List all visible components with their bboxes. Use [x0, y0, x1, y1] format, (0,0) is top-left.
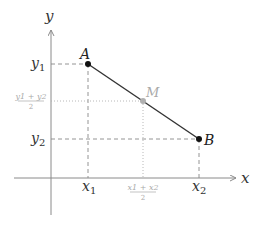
tick-ym: y1 + y2 2	[14, 92, 46, 111]
svg-text:x: x	[82, 178, 90, 194]
point-b	[196, 136, 202, 142]
label-a: A	[78, 46, 90, 62]
tick-x1: x 1	[82, 178, 96, 196]
svg-text:2: 2	[29, 103, 33, 111]
tick-y2: y 2	[30, 130, 45, 148]
svg-text:2: 2	[200, 185, 206, 196]
svg-text:1: 1	[90, 185, 96, 196]
tick-xm: x1 + x2 2	[128, 183, 159, 202]
midpoint-guides	[51, 101, 143, 178]
svg-text:1: 1	[39, 62, 45, 73]
svg-text:y1 + y2: y1 + y2	[14, 92, 46, 101]
tick-y1: y 1	[30, 55, 45, 73]
svg-text:2: 2	[39, 137, 45, 148]
midpoint-diagram: A B M x y y 1 y 2 y1 + y2 2 x 1 x 2 x1 +…	[0, 0, 260, 228]
axis-label-y: y	[44, 7, 54, 25]
svg-text:2: 2	[141, 194, 145, 202]
svg-text:x: x	[192, 178, 200, 194]
tick-x2: x 2	[192, 178, 206, 196]
guide-lines	[51, 64, 199, 178]
label-b: B	[203, 132, 214, 148]
axis-label-x: x	[241, 169, 250, 187]
svg-text:x1 + x2: x1 + x2	[128, 183, 159, 192]
label-m: M	[145, 85, 160, 100]
